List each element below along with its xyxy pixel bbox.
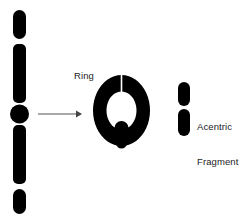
chromosome-long-arm-tip — [13, 189, 26, 214]
chromosome-long-arm-body — [13, 125, 26, 184]
chromosome-short-arm-tip — [13, 10, 26, 39]
ring-gap-slit — [121, 74, 123, 93]
ring-label: Ring — [74, 70, 94, 82]
ring-chromosome-diagram: Ring Acentric Fragment — [0, 0, 249, 224]
ring-centromere-notch-icon — [115, 121, 129, 135]
acentric-fragment-label-line1: Acentric — [197, 121, 238, 133]
acentric-fragment-upper — [178, 82, 190, 106]
chromosome-centromere-icon — [10, 105, 29, 124]
chromosome-short-arm-body — [13, 44, 26, 103]
acentric-fragment-lower — [178, 109, 190, 136]
acentric-fragment-label: Acentric Fragment — [197, 98, 238, 190]
ring-bottom-bump — [116, 138, 127, 149]
acentric-fragment-label-line2: Fragment — [197, 156, 238, 168]
